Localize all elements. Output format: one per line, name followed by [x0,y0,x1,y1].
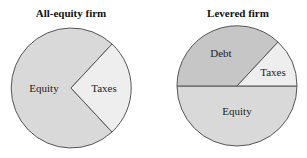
taxes-label: Taxes [260,66,286,78]
chart-figure: All-equity firm Levered firm Equity Taxe… [0,0,307,158]
pie-charts: Equity Taxes Debt Taxes Equity [0,0,307,158]
taxes-label: Taxes [91,82,117,94]
levered-pie: Debt Taxes Equity [177,26,297,146]
debt-label: Debt [210,47,231,59]
all-equity-pie: Equity Taxes [11,28,131,148]
equity-label: Equity [222,105,252,117]
equity-label: Equity [29,82,59,94]
